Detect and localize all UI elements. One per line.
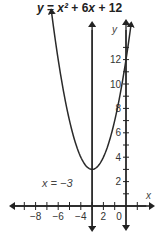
parabola-curve [51,11,131,169]
y-tick-label: 10 [110,79,122,90]
x-tick-label: 0 [116,211,122,222]
y-tick-label: 6 [115,127,121,138]
y-axis-label: y [111,24,118,35]
x-axis-label: x [145,190,152,201]
plot-area: −8−6−42024681012 x y x = −3 [0,0,159,244]
symmetry-label: x = −3 [41,177,73,189]
x-tick-label: −6 [52,211,64,222]
x-tick-label: 2 [101,211,107,222]
y-tick-label: 4 [115,152,121,163]
y-tick-label: 12 [110,54,122,65]
x-tick-label: −8 [30,211,42,222]
y-tick-label: 2 [115,176,121,187]
tick-labels: −8−6−42024681012 [30,54,122,222]
x-tick-label: −4 [75,211,87,222]
axes [12,22,152,228]
